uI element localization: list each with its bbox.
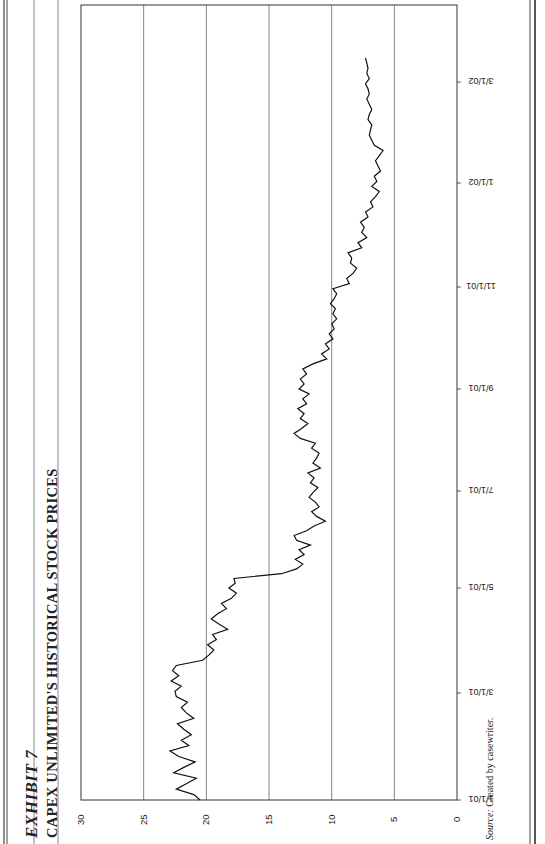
exhibit-page: EXHIBIT 7 CAPEX UNLIMITED'S HISTORICAL S… [0, 0, 545, 844]
date-tick-label: 11/1/01 [465, 281, 497, 291]
value-tick-label: 25 [138, 814, 149, 825]
source-text: Created by casewriter. [484, 718, 495, 807]
value-tick-label: 15 [263, 814, 274, 825]
date-tick-label: 5/1/01 [465, 582, 497, 592]
value-tick-label: 10 [326, 814, 337, 825]
date-tick-marks [457, 82, 461, 800]
source-note: Source: Created by casewriter. [484, 718, 495, 840]
date-tick-label: 9/1/01 [465, 383, 497, 393]
value-tick-label: 5 [388, 817, 399, 822]
value-tick-label: 0 [451, 817, 462, 822]
stock-price-line [170, 58, 383, 800]
source-label: Source: [484, 809, 495, 840]
chart-gridlines [144, 5, 395, 800]
date-tick-label: 7/1/01 [465, 485, 497, 495]
date-tick-label: 3/1/01 [465, 687, 497, 697]
date-tick-label: 1/1/02 [465, 177, 497, 187]
date-tick-label: 3/1/02 [465, 76, 497, 86]
value-tick-label: 30 [75, 814, 86, 825]
value-tick-label: 20 [200, 814, 211, 825]
stock-price-chart [0, 0, 545, 844]
